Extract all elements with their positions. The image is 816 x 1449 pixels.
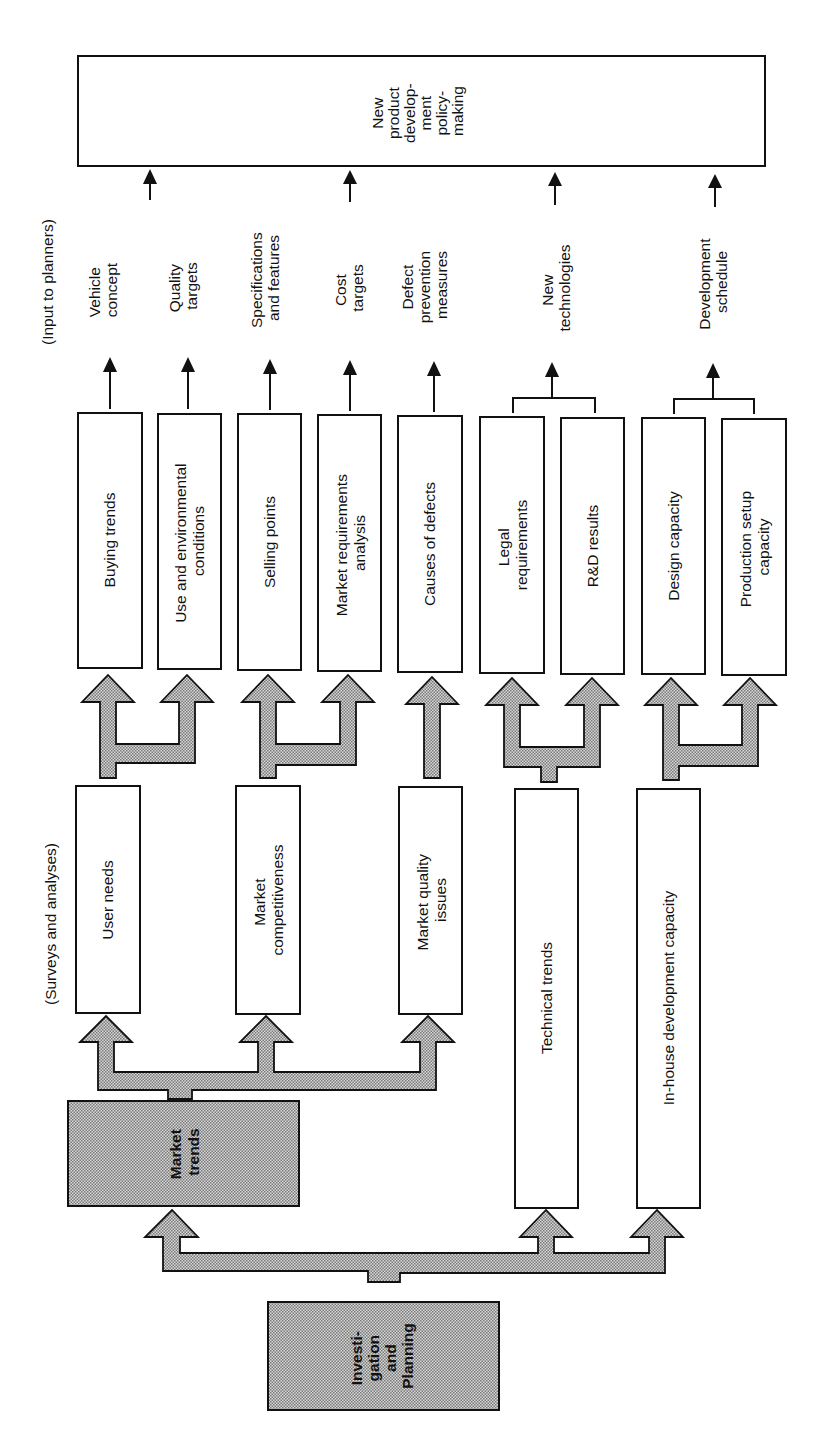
box-market-requirements-analysis: Market requirements analysis bbox=[318, 415, 381, 671]
box-legal-requirements: Legal requirements bbox=[480, 417, 544, 673]
output-defect-prevention-measures: Defect prevention measures bbox=[399, 247, 450, 324]
box-selling-points: Selling points bbox=[238, 414, 301, 670]
output-new-technologies: New technologies bbox=[539, 244, 573, 331]
analysis-boxes: Buying trends Use and environmental cond… bbox=[78, 413, 786, 675]
box-user-needs: User needs bbox=[76, 786, 140, 1013]
fat-arrow-market-competitiveness bbox=[242, 675, 374, 778]
box-causes-of-defects: Causes of defects bbox=[398, 416, 462, 672]
box-use-and-environmental-conditions: Use and environmental conditions bbox=[158, 414, 221, 669]
box-market-quality-issues: Market quality issues bbox=[399, 787, 462, 1014]
top-box-new-product-development-policy-making: New product develop- ment policy- making bbox=[78, 56, 765, 166]
svg-text:Market trends: Market trends bbox=[167, 1125, 202, 1179]
output-quality-targets: Quality targets bbox=[166, 260, 200, 313]
box-buying-trends: Buying trends bbox=[78, 413, 142, 668]
box-market-trends: Market trends bbox=[68, 1101, 299, 1206]
arrow-up-icon bbox=[427, 361, 441, 412]
arrow-up-icon bbox=[263, 359, 277, 410]
output-cost-targets: Cost targets bbox=[332, 264, 366, 312]
box-design-capacity: Design capacity bbox=[642, 418, 705, 674]
box-in-house-development-capacity: In-house development capacity bbox=[637, 789, 700, 1208]
fat-arrow-market-quality-issues bbox=[406, 677, 458, 778]
box-investigation-and-planning: Investi- gation and Planning bbox=[268, 1302, 499, 1410]
arrow-up-icon bbox=[343, 360, 357, 411]
svg-text:User needs: User needs bbox=[99, 860, 116, 940]
output-vehicle-concept: Vehicle concept bbox=[86, 262, 120, 317]
fat-arrow-market-trends bbox=[80, 1016, 454, 1099]
surveys-and-analyses-label: (Surveys and analyses) bbox=[42, 843, 59, 1005]
svg-text:In-house development capacity: In-house development capacity bbox=[660, 890, 677, 1105]
fat-arrow-in-house-capacity bbox=[645, 678, 776, 780]
box-technical-trends: Technical trends bbox=[515, 789, 578, 1208]
svg-text:Technical trends: Technical trends bbox=[538, 942, 555, 1054]
arrow-up-icon bbox=[103, 357, 117, 409]
output-specifications-and-features: Specifications and features bbox=[248, 228, 282, 328]
arrow-up-icon bbox=[548, 172, 562, 205]
svg-text:Selling points: Selling points bbox=[261, 496, 278, 588]
fat-arrow-user-needs bbox=[82, 675, 213, 778]
output-labels: Vehicle concept Quality targets Specific… bbox=[86, 228, 730, 332]
arrow-up-icon bbox=[708, 174, 722, 207]
merge-arrow-new-technologies bbox=[513, 362, 595, 413]
box-rd-results: R&D results bbox=[561, 418, 624, 674]
fat-connectors-surveys-to-analyses bbox=[82, 675, 776, 782]
svg-text:Design capacity: Design capacity bbox=[665, 491, 682, 601]
output-development-schedule: Development schedule bbox=[696, 234, 730, 330]
arrow-up-icon bbox=[143, 169, 157, 200]
merge-arrow-development-schedule bbox=[674, 363, 754, 414]
arrow-up-icon bbox=[343, 170, 357, 202]
box-market-competitiveness: Market competitiveness bbox=[236, 786, 300, 1014]
svg-text:R&D results: R&D results bbox=[584, 504, 601, 587]
fat-arrow-technical-trends bbox=[486, 678, 618, 782]
fat-arrow-investigation-and-planning bbox=[145, 1210, 683, 1282]
top-input-arrows bbox=[143, 169, 722, 207]
product-planning-flow-diagram: New product develop- ment policy- making… bbox=[0, 0, 816, 1449]
box-production-setup-capacity: Production setup capacity bbox=[722, 419, 786, 675]
arrow-up-icon bbox=[181, 357, 195, 409]
svg-text:Causes of defects: Causes of defects bbox=[421, 482, 438, 606]
svg-text:Buying trends: Buying trends bbox=[101, 492, 118, 587]
input-to-planners-label: (Input to planners) bbox=[39, 219, 56, 345]
analysis-output-arrows bbox=[103, 357, 754, 414]
